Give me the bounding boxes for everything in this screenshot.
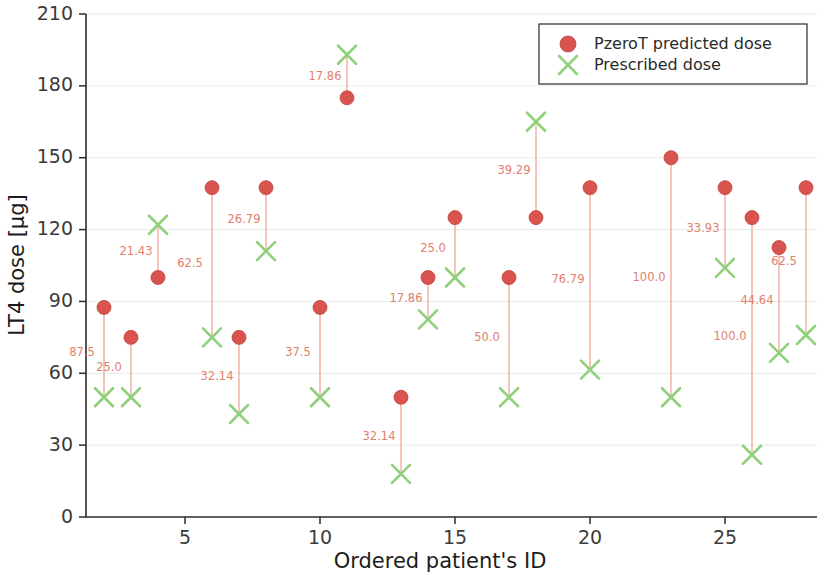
predicted-dose-marker [259, 181, 273, 195]
point-value-label: 25.0 [420, 241, 446, 255]
point-value-label: 87.5 [69, 345, 95, 359]
point-value-label: 17.86 [309, 69, 342, 83]
point-value-labels: 87.525.021.4362.532.1426.7937.517.8632.1… [69, 69, 797, 442]
predicted-dose-marker [664, 151, 678, 165]
chart-container: 0306090120150180210 510152025 87.525.021… [0, 0, 817, 575]
predicted-dose-marker [502, 270, 516, 284]
legend-label: PzeroT predicted dose [594, 34, 772, 53]
point-value-label: 21.43 [120, 244, 153, 258]
legend: PzeroT predicted dosePrescribed dose [539, 24, 807, 84]
scatter-plot: 0306090120150180210 510152025 87.525.021… [0, 0, 817, 575]
predicted-dose-marker [232, 330, 246, 344]
point-value-label: 76.79 [552, 272, 585, 286]
point-value-label: 44.64 [741, 293, 774, 307]
predicted-dose-marker [340, 91, 354, 105]
connector-lines [101, 55, 810, 474]
predicted-dose-marker [583, 181, 597, 195]
predicted-dose-marker [124, 330, 138, 344]
y-tick-label: 90 [49, 289, 73, 311]
x-tick-label: 25 [713, 526, 737, 548]
point-value-label: 26.79 [228, 212, 261, 226]
legend-circle-icon [560, 36, 576, 52]
predicted-dose-marker [799, 181, 813, 195]
predicted-dose-marker [772, 241, 786, 255]
y-axis-title: LT4 dose [µg] [5, 194, 29, 335]
point-value-label: 25.0 [96, 360, 122, 374]
predicted-dose-marker [394, 390, 408, 404]
predicted-dose-marker [529, 211, 543, 225]
point-value-label: 37.5 [285, 345, 311, 359]
predicted-dose-marker [718, 181, 732, 195]
x-tick-label: 20 [578, 526, 602, 548]
x-tick-label: 15 [443, 526, 467, 548]
y-tick-label: 30 [49, 433, 73, 455]
predicted-dose-marker [97, 300, 111, 314]
y-tick-labels: 0306090120150180210 [37, 2, 73, 527]
point-value-label: 17.86 [390, 291, 423, 305]
predicted-dose-marker [313, 300, 327, 314]
point-value-label: 100.0 [714, 329, 747, 343]
predicted-dose-marker [421, 270, 435, 284]
x-tick-labels: 510152025 [179, 526, 737, 548]
predicted-dose-marker [448, 211, 462, 225]
point-value-label: 100.0 [633, 270, 666, 284]
y-tick-label: 210 [37, 2, 73, 24]
point-value-label: 62.5 [177, 256, 203, 270]
y-tick-label: 0 [61, 505, 73, 527]
y-tick-label: 150 [37, 145, 73, 167]
predicted-dose-marker [745, 211, 759, 225]
x-tick-label: 10 [308, 526, 332, 548]
x-axis-title: Ordered patient's ID [334, 549, 547, 573]
x-tick-label: 5 [179, 526, 191, 548]
point-value-label: 50.0 [474, 330, 500, 344]
y-tick-label: 180 [37, 73, 73, 95]
point-value-label: 32.14 [363, 429, 396, 443]
y-tick-label: 60 [49, 361, 73, 383]
predicted-dose-marker [205, 181, 219, 195]
point-value-label: 32.14 [201, 369, 234, 383]
point-value-label: 39.29 [498, 163, 531, 177]
y-tick-label: 120 [37, 217, 73, 239]
point-value-label: 33.93 [687, 221, 720, 235]
predicted-dose-marker [151, 270, 165, 284]
legend-label: Prescribed dose [594, 55, 721, 74]
point-value-label: 62.5 [771, 254, 797, 268]
